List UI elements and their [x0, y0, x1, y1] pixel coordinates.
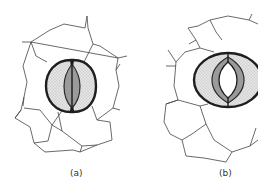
- panel-b-label: (b): [219, 168, 232, 178]
- panel-a-guard-cells: [46, 60, 96, 112]
- panel-a-label: (a): [70, 168, 83, 178]
- stomata-diagram: [0, 0, 258, 187]
- panel-b-guard-cells: [194, 53, 258, 107]
